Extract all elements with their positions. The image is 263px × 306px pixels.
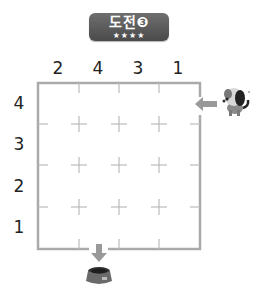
dog-bowl-icon	[85, 266, 113, 286]
arrow-left-icon	[195, 97, 217, 111]
arrow-down-icon	[91, 244, 107, 262]
maze-grid	[0, 0, 263, 306]
dog-icon	[220, 86, 254, 116]
